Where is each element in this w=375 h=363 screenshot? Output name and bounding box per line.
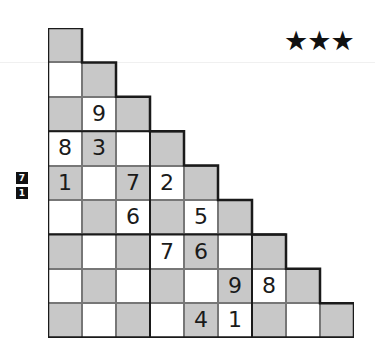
- grid-cell-r5c2[interactable]: [82, 166, 116, 200]
- grid-cell-r1c1[interactable]: [48, 28, 82, 62]
- grid-cell-r6c6[interactable]: [218, 200, 252, 234]
- grid-cell-r7c5[interactable]: 6: [184, 234, 218, 268]
- grid-cell-r2c1[interactable]: [48, 62, 82, 96]
- grid-cell-r4c2[interactable]: 3: [82, 131, 116, 165]
- grid-cell-r3c2[interactable]: 9: [82, 97, 116, 131]
- grid-cell-r8c4[interactable]: [150, 269, 184, 303]
- grid-cell-r7c1[interactable]: [48, 234, 82, 268]
- grid-cell-r7c2[interactable]: [82, 234, 116, 268]
- grid-cell-r4c3[interactable]: [116, 131, 150, 165]
- grid-cell-r9c1[interactable]: [48, 303, 82, 337]
- grid-cell-r8c7[interactable]: 8: [252, 269, 286, 303]
- grid-cell-r6c5[interactable]: 5: [184, 200, 218, 234]
- grid-cell-r8c6[interactable]: 9: [218, 269, 252, 303]
- grid-cell-r9c6[interactable]: 1: [218, 303, 252, 337]
- grid-cell-r7c6[interactable]: [218, 234, 252, 268]
- grid-cell-r7c4[interactable]: 7: [150, 234, 184, 268]
- grid-cell-r5c4[interactable]: 2: [150, 166, 184, 200]
- grid-cell-r8c5[interactable]: [184, 269, 218, 303]
- grid-cell-r3c3[interactable]: [116, 97, 150, 131]
- grid-cell-r6c4[interactable]: [150, 200, 184, 234]
- grid-cell-r2c2[interactable]: [82, 62, 116, 96]
- grid-cell-r3c1[interactable]: [48, 97, 82, 131]
- grid-cell-r8c3[interactable]: [116, 269, 150, 303]
- grid-cell-r6c3[interactable]: 6: [116, 200, 150, 234]
- grid-cell-r7c3[interactable]: [116, 234, 150, 268]
- grid-cell-r4c1[interactable]: 8: [48, 131, 82, 165]
- grid-cell-r8c2[interactable]: [82, 269, 116, 303]
- puzzle-grid: 98317265769841: [48, 28, 354, 338]
- grid-cell-r8c1[interactable]: [48, 269, 82, 303]
- grid-cell-r8c8[interactable]: [286, 269, 320, 303]
- grid-cell-r6c2[interactable]: [82, 200, 116, 234]
- grid-cell-r7c7[interactable]: [252, 234, 286, 268]
- grid-cell-r5c1[interactable]: 1: [48, 166, 82, 200]
- grid-cell-r9c2[interactable]: [82, 303, 116, 337]
- grid-cell-r9c4[interactable]: [150, 303, 184, 337]
- clue-box-bottom: 1: [16, 187, 28, 199]
- grid-cell-r5c5[interactable]: [184, 166, 218, 200]
- clue-box-top: 7: [16, 172, 28, 184]
- grid-cell-r4c4[interactable]: [150, 131, 184, 165]
- grid-cell-r9c5[interactable]: 4: [184, 303, 218, 337]
- grid-cell-r9c3[interactable]: [116, 303, 150, 337]
- grid-cell-r5c3[interactable]: 7: [116, 166, 150, 200]
- grid-cell-r6c1[interactable]: [48, 200, 82, 234]
- grid-cell-r9c7[interactable]: [252, 303, 286, 337]
- grid-cell-r9c8[interactable]: [286, 303, 320, 337]
- grid-cell-r9c9[interactable]: [320, 303, 354, 337]
